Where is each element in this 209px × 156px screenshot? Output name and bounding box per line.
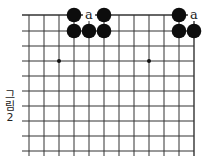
star-point: [147, 59, 151, 63]
black-stone: [82, 24, 97, 39]
black-stone: [172, 24, 187, 39]
black-stone: [187, 24, 202, 39]
point-marker-a: a: [190, 7, 198, 22]
black-stone: [67, 24, 82, 39]
point-marker-a: a: [85, 7, 93, 22]
black-stone: [97, 8, 112, 23]
black-stone: [172, 8, 187, 23]
go-board: aa: [0, 0, 209, 156]
figure-caption: 그 림 2: [3, 90, 17, 123]
caption-number: 2: [3, 112, 17, 123]
black-stone: [97, 24, 112, 39]
star-point: [57, 59, 61, 63]
black-stone: [67, 8, 82, 23]
